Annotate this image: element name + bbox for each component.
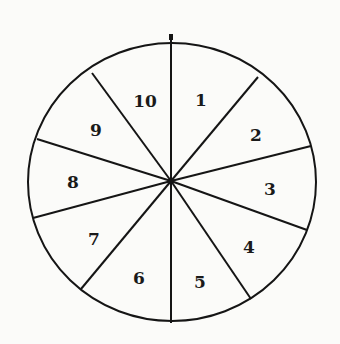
sector-label-6: 6 bbox=[133, 268, 145, 288]
sector-label-10: 10 bbox=[133, 91, 157, 111]
sector-label-5: 5 bbox=[194, 272, 206, 292]
sector-label-9: 9 bbox=[90, 120, 102, 140]
sector-label-1: 1 bbox=[195, 90, 207, 110]
sector-label-2: 2 bbox=[250, 125, 262, 145]
sector-label-3: 3 bbox=[264, 179, 276, 199]
sector-label-8: 8 bbox=[67, 172, 79, 192]
spinner-diagram: 1 2 3 4 5 6 7 8 9 10 bbox=[0, 0, 340, 344]
sector-label-7: 7 bbox=[88, 229, 100, 249]
sector-label-4: 4 bbox=[243, 237, 255, 257]
center-pivot bbox=[168, 178, 174, 184]
pointer-icon bbox=[169, 34, 173, 40]
